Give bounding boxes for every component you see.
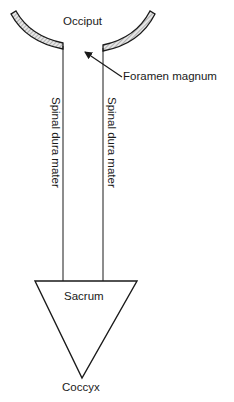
spinal-dura-mater-label-right: Spinal dura mater bbox=[105, 97, 118, 188]
coccyx-label: Coccyx bbox=[62, 381, 100, 394]
spinal-dura-mater-label-left: Spinal dura mater bbox=[49, 97, 62, 188]
diagram-graphics bbox=[0, 0, 234, 402]
occiput-label: Occiput bbox=[63, 15, 102, 28]
sacrum-label: Sacrum bbox=[64, 290, 104, 303]
foramen-magnum-label: Foramen magnum bbox=[123, 70, 217, 83]
occiput-left-arc bbox=[11, 11, 63, 49]
occiput-right-arc bbox=[103, 11, 155, 51]
spinal-dura-diagram: Occiput Foramen magnum Spinal dura mater… bbox=[0, 0, 234, 402]
